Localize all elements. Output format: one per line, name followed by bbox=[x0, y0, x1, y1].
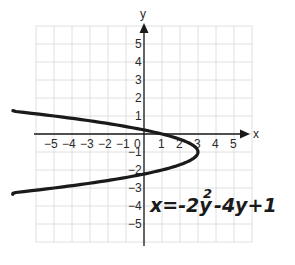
x-tick-label: 4 bbox=[212, 137, 219, 151]
parabola-graph: x y −5−4−3−2−1012345 54321−1−2−3−4−5 x=-… bbox=[0, 0, 295, 265]
y-tick-label: 4 bbox=[135, 55, 142, 69]
x-tick-label: −5 bbox=[44, 137, 58, 151]
x-tick-label: −3 bbox=[80, 137, 94, 151]
x-tick-label: 1 bbox=[158, 137, 165, 151]
x-tick-label: −4 bbox=[62, 137, 76, 151]
y-tick-label: 3 bbox=[135, 73, 142, 87]
y-tick-label: 2 bbox=[135, 91, 142, 105]
y-tick-label: −1 bbox=[128, 145, 142, 159]
equation-exponent: 2 bbox=[203, 186, 212, 201]
y-tick-label: −5 bbox=[128, 217, 142, 231]
y-tick-label: 5 bbox=[135, 37, 142, 51]
x-axis-arrow-icon bbox=[240, 130, 250, 139]
equation-annotation: x=-2y 2 -4y+1 bbox=[149, 186, 277, 216]
y-axis-arrow-icon bbox=[140, 23, 149, 33]
y-axis-label: y bbox=[140, 7, 146, 21]
parabola-curve bbox=[13, 111, 198, 195]
x-tick-label: −2 bbox=[98, 137, 112, 151]
y-tick-label: −3 bbox=[128, 181, 142, 195]
x-axis-label: x bbox=[253, 127, 259, 141]
y-tick-label: −4 bbox=[128, 199, 142, 213]
equation-rest: -4y+1 bbox=[214, 194, 277, 216]
x-tick-label: 5 bbox=[230, 137, 237, 151]
y-tick-label: 1 bbox=[135, 109, 142, 123]
